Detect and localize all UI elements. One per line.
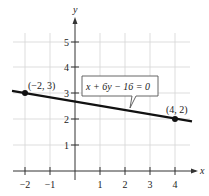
y-tick-label: 1 [64, 140, 69, 151]
point-label: (−2, 3) [28, 80, 55, 92]
y-tick-label: 2 [64, 114, 69, 125]
x-axis-arrow-icon [191, 169, 198, 174]
x-tick-label: 4 [173, 179, 178, 190]
y-axis-arrow-icon [73, 17, 78, 24]
equation-callout: x + 6y − 16 = 0 [82, 76, 158, 108]
point-label: (4, 2) [166, 104, 188, 116]
x-axis-label: x [199, 165, 205, 176]
grid [13, 33, 190, 171]
x-tick-label: −2 [20, 179, 31, 190]
data-point [172, 116, 178, 122]
line-chart: −2 −1 1 2 3 4 1 2 3 4 5 x y (−2, 3) (4, … [0, 0, 209, 196]
y-tick-label: 5 [64, 37, 69, 48]
equation-label: x + 6y − 16 = 0 [85, 81, 150, 92]
axes [13, 20, 196, 180]
x-tick-label: 2 [123, 179, 128, 190]
y-tick-label: 4 [64, 62, 69, 73]
y-axis-label: y [72, 4, 78, 15]
y-tick-label: 3 [64, 88, 69, 99]
x-tick-label: 1 [98, 179, 103, 190]
x-tick-label: −1 [45, 179, 56, 190]
x-tick-label: 3 [148, 179, 153, 190]
